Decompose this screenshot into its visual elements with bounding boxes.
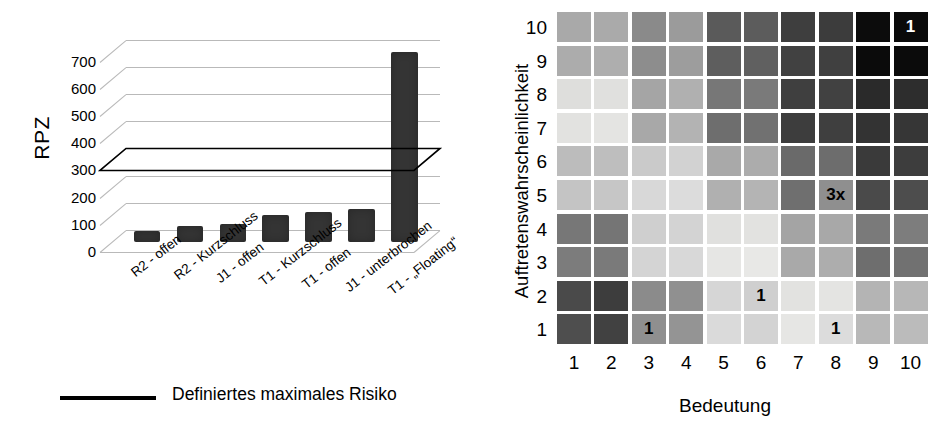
matrix-cell[interactable]: [669, 12, 703, 42]
matrix-cell[interactable]: [781, 46, 815, 76]
matrix-cell[interactable]: [819, 46, 853, 76]
matrix-cell[interactable]: [669, 314, 703, 344]
matrix-cell[interactable]: [669, 247, 703, 277]
matrix-cell[interactable]: [856, 314, 890, 344]
matrix-cell[interactable]: [744, 46, 778, 76]
matrix-cell[interactable]: [707, 214, 741, 244]
matrix-cell[interactable]: [557, 113, 591, 143]
matrix-cell[interactable]: [707, 79, 741, 109]
matrix-cell[interactable]: [781, 180, 815, 210]
matrix-cell[interactable]: [594, 79, 628, 109]
matrix-cell[interactable]: [781, 281, 815, 311]
matrix-cell[interactable]: [557, 180, 591, 210]
matrix-cell[interactable]: [781, 12, 815, 42]
matrix-cell[interactable]: [819, 146, 853, 176]
matrix-cell[interactable]: [707, 247, 741, 277]
matrix-cell[interactable]: [819, 214, 853, 244]
matrix-cell[interactable]: [856, 113, 890, 143]
matrix-cell[interactable]: [557, 247, 591, 277]
matrix-cell[interactable]: [669, 79, 703, 109]
matrix-cell[interactable]: [707, 281, 741, 311]
matrix-cell[interactable]: [856, 146, 890, 176]
matrix-cell[interactable]: [894, 247, 928, 277]
matrix-cell[interactable]: [744, 247, 778, 277]
matrix-cell[interactable]: [669, 214, 703, 244]
matrix-cell[interactable]: [632, 46, 666, 76]
matrix-cell[interactable]: [557, 46, 591, 76]
matrix-cell[interactable]: [781, 247, 815, 277]
matrix-cell[interactable]: [781, 146, 815, 176]
bar-chart-y-tick: 300: [52, 163, 96, 176]
matrix-cell[interactable]: [632, 12, 666, 42]
bar-chart-y-tick: 700: [52, 55, 96, 68]
matrix-cell[interactable]: [894, 146, 928, 176]
matrix-cell-annotation: 1: [632, 314, 666, 344]
matrix-cell[interactable]: [707, 314, 741, 344]
matrix-cell[interactable]: [894, 180, 928, 210]
legend-line-swatch: [60, 396, 156, 400]
matrix-cell[interactable]: [744, 79, 778, 109]
matrix-cell[interactable]: [781, 314, 815, 344]
matrix-cell[interactable]: [669, 281, 703, 311]
matrix-cell[interactable]: [856, 12, 890, 42]
matrix-cell[interactable]: [707, 180, 741, 210]
matrix-cell[interactable]: [594, 113, 628, 143]
matrix-cell[interactable]: [632, 281, 666, 311]
matrix-cell[interactable]: [744, 314, 778, 344]
matrix-cell[interactable]: [632, 214, 666, 244]
matrix-cell[interactable]: [669, 146, 703, 176]
matrix-cell[interactable]: [632, 180, 666, 210]
matrix-cell[interactable]: [819, 281, 853, 311]
matrix-cell[interactable]: [856, 247, 890, 277]
matrix-cell[interactable]: [669, 180, 703, 210]
matrix-cell[interactable]: [557, 281, 591, 311]
matrix-cell[interactable]: [594, 214, 628, 244]
matrix-cell[interactable]: [856, 46, 890, 76]
matrix-cell[interactable]: [557, 12, 591, 42]
matrix-cell[interactable]: [632, 79, 666, 109]
matrix-cell[interactable]: [856, 214, 890, 244]
matrix-cell[interactable]: [707, 12, 741, 42]
matrix-cell[interactable]: [594, 46, 628, 76]
matrix-cell[interactable]: [744, 146, 778, 176]
matrix-cell[interactable]: [781, 214, 815, 244]
matrix-cell[interactable]: [856, 281, 890, 311]
matrix-cell[interactable]: [856, 180, 890, 210]
matrix-cell[interactable]: [669, 113, 703, 143]
matrix-cell[interactable]: [707, 113, 741, 143]
matrix-cell[interactable]: [632, 113, 666, 143]
matrix-cell[interactable]: [632, 247, 666, 277]
matrix-cell[interactable]: [744, 214, 778, 244]
matrix-cell[interactable]: [781, 79, 815, 109]
matrix-cell[interactable]: [744, 180, 778, 210]
matrix-cell[interactable]: [707, 146, 741, 176]
matrix-cell[interactable]: [669, 46, 703, 76]
matrix-cell[interactable]: [594, 281, 628, 311]
matrix-cell[interactable]: [819, 12, 853, 42]
matrix-cell[interactable]: [557, 79, 591, 109]
matrix-cell[interactable]: [819, 113, 853, 143]
matrix-cell[interactable]: [894, 314, 928, 344]
matrix-cell[interactable]: [894, 281, 928, 311]
matrix-cell[interactable]: [707, 46, 741, 76]
matrix-cell[interactable]: [819, 79, 853, 109]
matrix-cell[interactable]: [894, 113, 928, 143]
matrix-cell[interactable]: [856, 79, 890, 109]
matrix-cell[interactable]: [594, 146, 628, 176]
matrix-cell[interactable]: [744, 12, 778, 42]
matrix-cell[interactable]: [594, 12, 628, 42]
matrix-cell[interactable]: [557, 214, 591, 244]
matrix-cell[interactable]: [744, 113, 778, 143]
matrix-cell[interactable]: [594, 247, 628, 277]
matrix-cell[interactable]: [894, 46, 928, 76]
risk-matrix-heatmap: Auftretenswahrscheinlichkeit 10987654321…: [460, 0, 923, 433]
matrix-cell[interactable]: [594, 180, 628, 210]
matrix-cell[interactable]: [781, 113, 815, 143]
matrix-cell[interactable]: [632, 146, 666, 176]
matrix-cell[interactable]: [557, 146, 591, 176]
matrix-cell[interactable]: [594, 314, 628, 344]
matrix-cell[interactable]: [819, 247, 853, 277]
matrix-cell[interactable]: [557, 314, 591, 344]
matrix-cell[interactable]: [894, 79, 928, 109]
matrix-cell[interactable]: [894, 214, 928, 244]
